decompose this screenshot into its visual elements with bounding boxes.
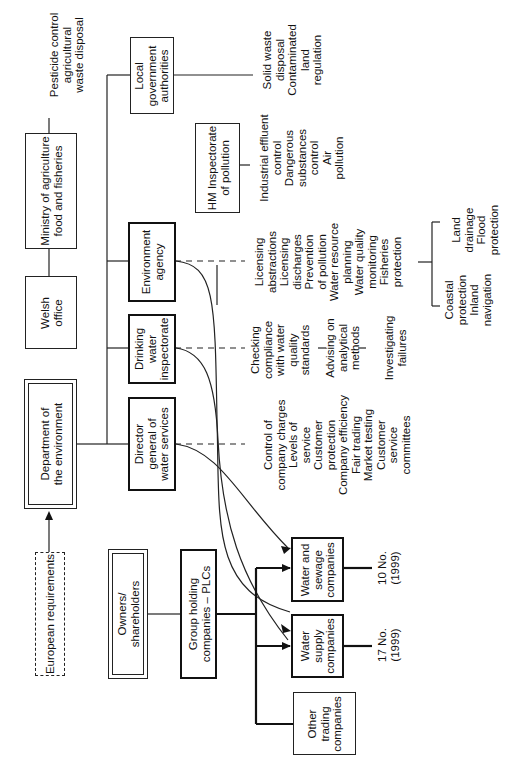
local-government-box: Local government authorities [130, 37, 174, 114]
maff-label: Ministry of agriculture food and fisheri… [39, 136, 64, 245]
other-trading-companies-box: Other trading companies [293, 692, 356, 755]
owners-shareholders-box: Owners/ shareholders [108, 549, 148, 679]
drinking-water-advising: Advising on analytical methods [324, 318, 362, 377]
water-supply-companies-label: Water supply companies [299, 618, 337, 674]
group-holding-box: Group holding companies – PLCs [180, 549, 217, 679]
director-general-label: Director general of water services [133, 407, 171, 481]
environment-agency-label: Environment agency [140, 230, 165, 295]
department-environment-label: Department of the environment [38, 403, 63, 485]
group-holding-label: Group holding companies – PLCs [186, 566, 211, 663]
environment-agency-sub-left: Coastal protection Inland navigation [443, 274, 493, 326]
european-requirements-label: European requirements [44, 554, 57, 674]
hm-inspectorate-functions: Industrial effluent control Dangerous su… [258, 114, 346, 201]
hm-inspectorate-box: HM Inspectorate of pollution [195, 123, 240, 213]
european-requirements-box: European requirements [35, 552, 65, 676]
welsh-office-box: Welsh office [25, 276, 77, 349]
water-sewage-companies-label: Water and sewage companies [299, 542, 337, 598]
regulatory-structure-diagram: European requirements Department of the … [0, 0, 518, 777]
welsh-office-label: Welsh office [39, 297, 64, 329]
hm-inspectorate-label: HM Inspectorate of pollution [205, 126, 230, 210]
drinking-water-investigating: Investigating failures [383, 316, 408, 381]
water-sewage-companies-box: Water and sewage companies [291, 537, 344, 602]
water-supply-companies-box: Water supply companies [291, 614, 344, 678]
environment-agency-functions: Licensing abstractions Licensing dischar… [253, 223, 403, 301]
owners-shareholders-label: Owners/ shareholders [116, 581, 141, 647]
drinking-water-inspectorate-label: Drinking water inspectorate [133, 318, 171, 381]
maff-box: Ministry of agriculture food and fisheri… [25, 133, 77, 249]
local-government-label: Local government authorities [133, 45, 171, 106]
director-general-box: Director general of water services [128, 397, 176, 491]
director-general-functions: Control of company charges Levels of ser… [262, 395, 412, 495]
department-environment-box: Department of the environment [24, 379, 77, 509]
water-supply-count: 17 No. (1999) [376, 628, 401, 662]
environment-agency-sub-right: Land drainage Flood protection [450, 205, 500, 256]
maff-functions: Pesticide control agricultural waste dis… [48, 13, 86, 97]
drinking-water-functions: Checking compliance with water quality s… [249, 321, 312, 379]
environment-agency-box: Environment agency [128, 222, 176, 302]
drinking-water-inspectorate-box: Drinking water inspectorate [128, 314, 176, 384]
other-trading-companies-label: Other trading companies [306, 696, 344, 752]
water-sewage-count: 10 No. (1999) [376, 551, 401, 585]
local-government-functions: Solid waste disposal Contaminated land r… [261, 24, 324, 96]
